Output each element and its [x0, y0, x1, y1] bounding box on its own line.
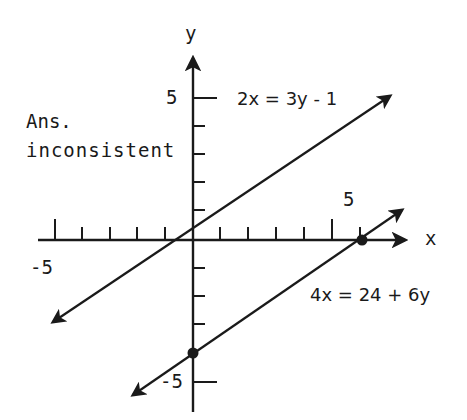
y-intercept-point: [188, 348, 199, 359]
x-tick-label-5: 5: [343, 190, 354, 209]
x-intercept-point: [357, 235, 368, 246]
answer-label-line2: inconsistent: [26, 141, 175, 160]
y-axis-label: y: [185, 24, 196, 43]
coordinate-plane: [0, 0, 467, 420]
equation-label-1: 2x = 3y - 1: [237, 90, 337, 108]
x-tick-label-neg5: -5: [30, 258, 53, 277]
y-tick-label-5: 5: [166, 88, 177, 107]
x-ticks: [55, 219, 360, 240]
answer-label-line1: Ans.: [26, 112, 72, 131]
equation-label-2: 4x = 24 + 6y: [310, 286, 430, 304]
x-axis-label: x: [425, 229, 436, 248]
y-tick-label-neg5: -5: [160, 372, 183, 391]
